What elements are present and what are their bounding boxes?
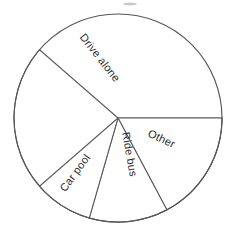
- pie-chart-canvas: Drive alone Other Ride bus Car pool: [0, 0, 234, 239]
- pie-chart-figure: Drive alone Other Ride bus Car pool: [0, 0, 234, 239]
- pie-label-drive-alone: Drive alone: [78, 31, 123, 84]
- scan-artifact-speck: [123, 3, 137, 6]
